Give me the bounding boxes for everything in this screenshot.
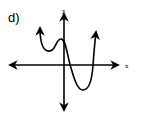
polynomial-graph: x y bbox=[0, 0, 145, 121]
y-axis-label: y bbox=[62, 7, 66, 15]
x-axis-label: x bbox=[125, 62, 129, 70]
function-curve bbox=[40, 28, 96, 90]
